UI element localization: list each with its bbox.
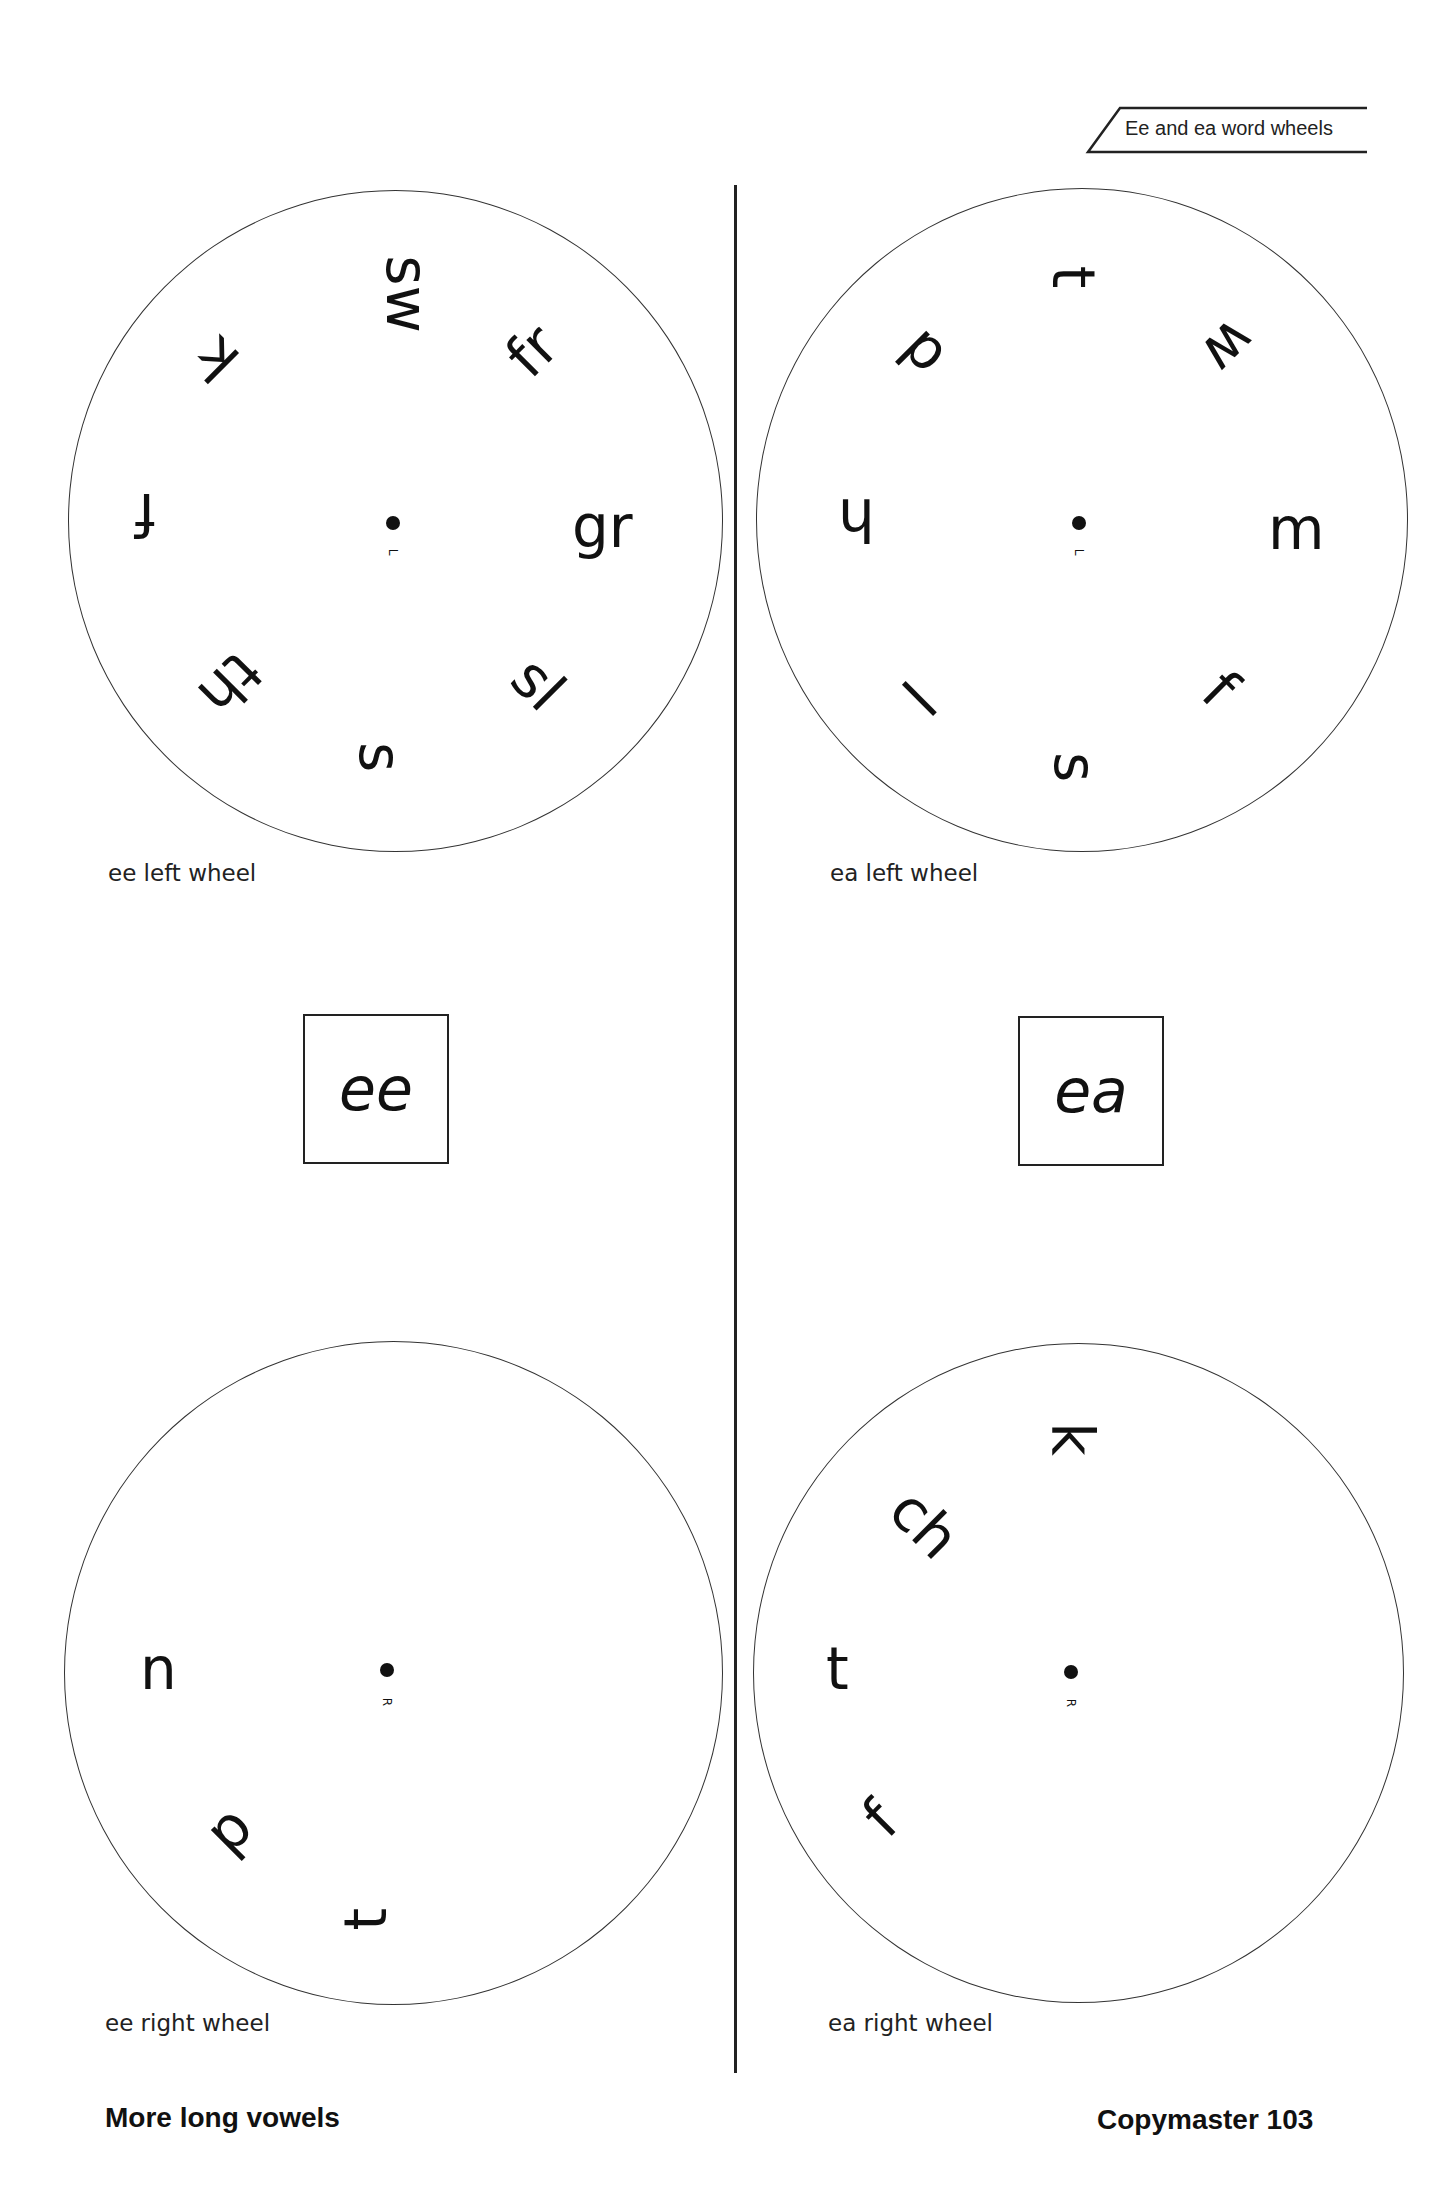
ea-left-wheel-label: ea left wheel <box>830 860 978 886</box>
ea-right-wheel-label: ea right wheel <box>828 2010 993 2036</box>
ea-right-ending-t: t <box>826 1640 849 1698</box>
ea-left-wheel-mark: L <box>1072 549 1086 556</box>
ea-right-wheel-mark: R <box>1064 1699 1078 1707</box>
ee-left-wheel-pivot-dot <box>386 516 400 530</box>
center-divider-line <box>734 185 737 2073</box>
ee-left-onset-sw: sw <box>378 255 436 333</box>
ea-left-onset-s: s <box>1046 752 1104 782</box>
ee-right-wheel-mark: R <box>380 1698 394 1706</box>
ea-left-onset-h: h <box>838 490 875 548</box>
ee-right-wheel-pivot-dot <box>380 1663 394 1677</box>
page-title: Ee and ea word wheels <box>1125 117 1333 140</box>
ee-right-wheel-label: ee right wheel <box>105 2010 270 2036</box>
ee-right-ending-t: t <box>337 1908 395 1931</box>
ee-left-onset-s: s <box>351 742 409 772</box>
ea-left-onset-m: m <box>1268 500 1325 558</box>
page-header-tab: Ee and ea word wheels <box>1085 105 1367 155</box>
ee-left-wheel-label: ee left wheel <box>108 860 256 886</box>
ea-left-wheel-pivot-dot <box>1072 516 1086 530</box>
ea-right-wheel-pivot-dot <box>1064 1665 1078 1679</box>
ee-right-ending-n: n <box>140 1640 177 1698</box>
ea-right-ending-k: k <box>1043 1422 1101 1456</box>
ee-left-wheel-mark: L <box>386 549 400 556</box>
footer-section-title: More long vowels <box>105 2102 340 2134</box>
footer-page-number: Copymaster 103 <box>1097 2104 1313 2136</box>
vowel-box-ea: ea <box>1018 1016 1164 1166</box>
ee-left-onset-f: f <box>135 485 155 543</box>
ea-left-onset-t: t <box>1044 266 1102 289</box>
ee-left-onset-gr: gr <box>572 498 633 556</box>
vowel-box-ee: ee <box>303 1014 449 1164</box>
